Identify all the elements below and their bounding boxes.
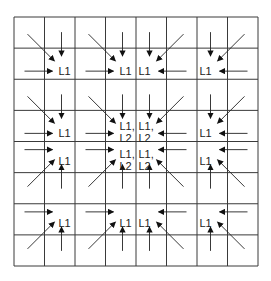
block-label: L1 <box>120 65 132 77</box>
block-0-1: L1 <box>86 32 132 77</box>
block-label: L1 <box>200 217 212 229</box>
block-3-2: L1 <box>139 212 187 251</box>
grid <box>14 17 258 266</box>
block-label: L1,L2 <box>139 148 154 172</box>
block-label: L1,L2 <box>120 148 135 172</box>
block-1-2: L1,L2 <box>139 94 187 144</box>
block-label: L1 <box>59 217 71 229</box>
block-1-1: L1,L2 <box>86 94 135 144</box>
block-0-0: L1 <box>25 32 71 77</box>
block-label: L1,L2 <box>120 120 135 144</box>
block-3-0: L1 <box>25 212 71 251</box>
block-0-2: L1 <box>139 32 187 77</box>
block-label: L1,L2 <box>139 120 154 144</box>
block-1-0: L1 <box>25 94 71 139</box>
block-2-2: L1,L2 <box>139 148 187 189</box>
block-label: L1 <box>139 65 151 77</box>
block-2-0: L1 <box>25 150 71 189</box>
block-label: L1 <box>59 155 71 167</box>
block-0-3: L1 <box>200 32 248 77</box>
convergence-grid-diagram: L1L1L1L1L1L1,L2L1,L2L1L1L1,L2L1,L2L1L1L1… <box>0 0 271 281</box>
block-3-1: L1 <box>86 212 132 251</box>
block-label: L1 <box>200 127 212 139</box>
block-label: L1 <box>139 217 151 229</box>
block-label: L1 <box>59 65 71 77</box>
block-label: L1 <box>200 155 212 167</box>
block-1-3: L1 <box>200 94 248 139</box>
block-3-3: L1 <box>200 212 248 251</box>
block-2-3: L1 <box>200 150 248 189</box>
block-label: L1 <box>200 65 212 77</box>
block-label: L1 <box>120 217 132 229</box>
block-label: L1 <box>59 127 71 139</box>
block-2-1: L1,L2 <box>86 148 135 189</box>
